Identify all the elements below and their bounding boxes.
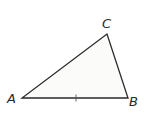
vertex-label-b: B: [129, 94, 138, 109]
triangle-diagram: A B C: [0, 0, 144, 119]
vertex-label-c: C: [102, 16, 112, 31]
triangle-abc: [22, 34, 128, 98]
vertex-label-a: A: [6, 91, 16, 106]
